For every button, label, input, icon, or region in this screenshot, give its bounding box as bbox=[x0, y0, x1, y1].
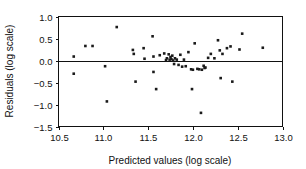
y-tick-label: 0.0 bbox=[39, 56, 52, 67]
data-point bbox=[221, 53, 224, 56]
data-point bbox=[207, 57, 210, 60]
data-point bbox=[152, 55, 155, 58]
data-point bbox=[193, 42, 196, 45]
data-point bbox=[261, 46, 264, 49]
y-tick-label: 1.0 bbox=[39, 12, 52, 23]
data-point bbox=[143, 57, 146, 60]
data-point bbox=[200, 112, 203, 115]
data-point bbox=[238, 48, 241, 51]
data-point bbox=[183, 58, 186, 61]
data-point bbox=[217, 39, 220, 42]
data-point bbox=[198, 68, 201, 71]
data-point bbox=[134, 80, 137, 83]
y-tick-label: −0.5 bbox=[34, 78, 53, 89]
data-point bbox=[72, 55, 75, 58]
data-point bbox=[181, 65, 184, 68]
x-axis-title: Predicted values (log scale) bbox=[109, 155, 232, 166]
y-axis-title: Residuals (log scale) bbox=[4, 25, 15, 118]
data-point bbox=[132, 53, 135, 56]
residual-scatter-figure: 1.00.50.0−0.5−1.0−1.5 10.511.011.512.012… bbox=[0, 0, 306, 169]
data-point bbox=[166, 57, 169, 60]
data-point bbox=[179, 53, 182, 56]
data-point bbox=[192, 68, 195, 71]
data-point bbox=[158, 54, 161, 57]
data-point bbox=[163, 52, 166, 55]
data-point bbox=[104, 65, 107, 68]
data-point bbox=[210, 53, 213, 56]
x-tick-label: 13.0 bbox=[274, 132, 293, 143]
data-point bbox=[177, 64, 180, 67]
plot-frame bbox=[59, 17, 283, 127]
y-tick-label: −1.0 bbox=[34, 100, 53, 111]
data-point bbox=[231, 80, 234, 83]
data-point bbox=[213, 57, 216, 60]
x-tick-label: 11.5 bbox=[140, 132, 158, 143]
data-point bbox=[226, 47, 229, 50]
y-tick-label: 0.5 bbox=[39, 34, 52, 45]
data-point bbox=[142, 47, 145, 50]
data-point bbox=[201, 68, 204, 71]
data-point bbox=[167, 53, 170, 56]
data-point bbox=[218, 49, 221, 52]
data-point bbox=[115, 26, 118, 29]
data-point bbox=[151, 35, 154, 38]
data-point bbox=[84, 45, 87, 48]
data-point bbox=[187, 51, 190, 54]
data-point bbox=[219, 77, 222, 80]
data-point bbox=[132, 49, 135, 52]
data-point bbox=[171, 54, 174, 57]
data-point bbox=[191, 88, 194, 91]
data-point bbox=[184, 65, 187, 68]
x-tick-label: 12.0 bbox=[184, 132, 203, 143]
data-point bbox=[152, 71, 155, 74]
scatter-data-points bbox=[72, 26, 264, 114]
data-point bbox=[91, 45, 94, 48]
data-point bbox=[241, 32, 244, 35]
x-tick-label: 10.5 bbox=[50, 132, 69, 143]
data-point bbox=[229, 45, 232, 48]
data-point bbox=[173, 63, 176, 66]
x-tick-label: 12.5 bbox=[229, 132, 248, 143]
data-point bbox=[155, 88, 158, 91]
x-axis-tick-labels: 10.511.011.512.012.513.0 bbox=[50, 132, 293, 143]
data-point bbox=[175, 58, 178, 61]
data-point bbox=[72, 72, 75, 75]
data-point bbox=[106, 100, 109, 103]
y-axis-tick-labels: 1.00.50.0−0.5−1.0−1.5 bbox=[34, 12, 53, 133]
x-tick-label: 11.0 bbox=[95, 132, 113, 143]
data-point bbox=[204, 66, 207, 69]
scatter-plot-canvas: 1.00.50.0−0.5−1.0−1.5 10.511.011.512.012… bbox=[0, 0, 306, 169]
